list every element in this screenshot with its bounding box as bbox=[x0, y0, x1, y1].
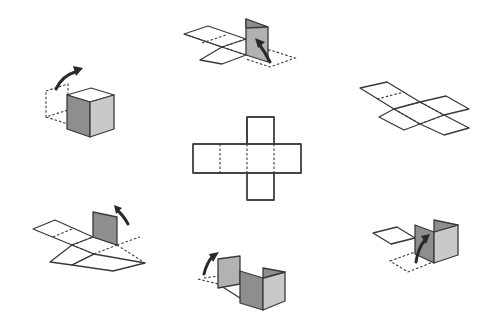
stage-bottom-right-two-up bbox=[373, 220, 458, 272]
stage-top-right-flat-net bbox=[360, 82, 469, 135]
center-flat-net bbox=[193, 117, 301, 200]
stage-bottom-left-one-raised bbox=[33, 205, 145, 271]
cube-folding-diagram bbox=[0, 0, 495, 328]
stage-top-one-face-up bbox=[184, 19, 295, 67]
stage-top-left-cube bbox=[46, 66, 114, 137]
stage-bottom-u-sleeve bbox=[198, 252, 285, 310]
